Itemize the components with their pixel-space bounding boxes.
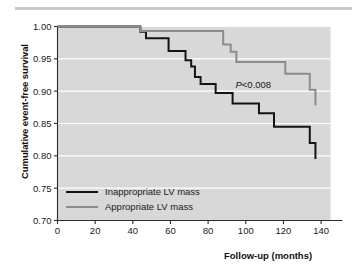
x-tick-label: 20 [90,225,101,236]
x-tick-labels-group: 020406080100120140 [55,225,329,236]
x-tick-label: 100 [238,225,254,236]
x-tick-label: 120 [276,225,292,236]
x-tick-label: 0 [55,225,60,236]
y-tick-label: 0.70 [33,215,52,226]
y-tick-label: 0.95 [33,53,52,64]
legend-label: Appropriate LV mass [105,201,193,212]
y-tick-label: 0.80 [33,150,52,161]
x-tick-label: 60 [165,225,176,236]
survival-chart: 0.700.750.800.850.900.951.00 02040608010… [0,0,352,273]
x-tick-label: 40 [128,225,139,236]
p-value-annotation: P<0.008 [235,79,271,90]
figure-root: 0.700.750.800.850.900.951.00 02040608010… [0,0,352,273]
y-tick-label: 0.85 [33,118,52,129]
annotations-group: P<0.008 [235,79,271,90]
legend-label: Inappropriate LV mass [105,186,200,197]
x-axis-title: Follow-up (months) [224,250,312,261]
y-tick-labels-group: 0.700.750.800.850.900.951.00 [33,21,52,226]
x-tick-label: 80 [203,225,214,236]
x-tick-label: 140 [313,225,329,236]
y-tick-label: 0.75 [33,183,52,194]
y-tick-label: 1.00 [33,21,52,32]
y-tick-label: 0.90 [33,86,52,97]
y-axis-title: Cumulative event-free survival [19,22,30,202]
